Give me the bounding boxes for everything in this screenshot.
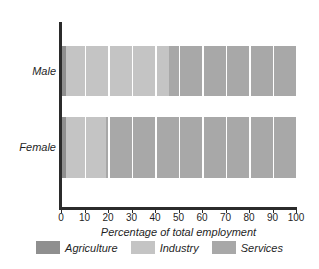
legend-item-services[interactable]: Services xyxy=(212,241,283,254)
bar-segment-male-industry xyxy=(66,46,169,96)
category-label-male: Male xyxy=(32,65,56,77)
tick-label-40: 40 xyxy=(149,212,160,223)
bar-segment-female-services xyxy=(106,117,296,178)
legend-swatch-agriculture xyxy=(36,241,60,254)
tick-label-90: 90 xyxy=(267,212,278,223)
bar-row-female xyxy=(61,117,296,178)
bar-segment-male-services xyxy=(169,46,296,96)
legend-item-industry[interactable]: Industry xyxy=(131,241,199,254)
chart-legend: AgricultureIndustryServices xyxy=(0,241,319,254)
tick-label-30: 30 xyxy=(126,212,137,223)
tick-label-20: 20 xyxy=(102,212,113,223)
tick-label-60: 60 xyxy=(196,212,207,223)
tick-label-10: 10 xyxy=(79,212,90,223)
legend-item-agriculture[interactable]: Agriculture xyxy=(36,241,118,254)
legend-swatch-industry xyxy=(131,241,155,254)
tick-label-80: 80 xyxy=(243,212,254,223)
legend-label-services: Services xyxy=(241,242,283,254)
tick-label-50: 50 xyxy=(173,212,184,223)
category-label-female: Female xyxy=(19,141,56,153)
legend-label-agriculture: Agriculture xyxy=(65,242,118,254)
tick-label-0: 0 xyxy=(58,212,64,223)
legend-swatch-services xyxy=(212,241,236,254)
x-axis-tick-labels: 0102030405060708090100 xyxy=(61,212,296,226)
legend-label-industry: Industry xyxy=(160,242,199,254)
stacked-bar-chart: 0102030405060708090100 Male Female Perce… xyxy=(0,0,319,269)
y-axis-line xyxy=(59,22,62,208)
x-axis-title: Percentage of total employment xyxy=(61,226,296,238)
bar-segment-female-industry xyxy=(66,117,106,178)
bar-row-male xyxy=(61,46,296,96)
tick-label-70: 70 xyxy=(220,212,231,223)
gridline-100 xyxy=(296,22,298,208)
tick-label-100: 100 xyxy=(288,212,305,223)
